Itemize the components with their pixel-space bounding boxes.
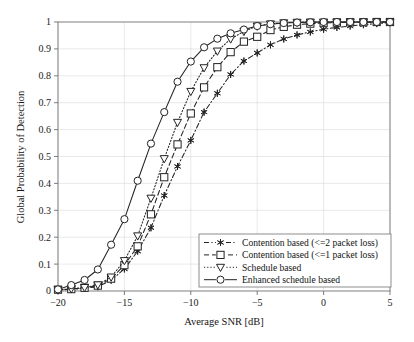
data-point-marker (187, 110, 194, 117)
legend-item[interactable]: Schedule based (204, 262, 302, 273)
legend-label: Schedule based (242, 262, 302, 273)
data-point-marker (307, 19, 314, 26)
data-point-marker (227, 30, 234, 37)
data-point-marker (217, 251, 224, 258)
data-point-marker (94, 266, 101, 273)
chart-figure: −20−15−10−505 00.10.20.30.40.50.60.70.80… (0, 0, 414, 342)
data-point-marker (386, 18, 393, 25)
data-point-marker (333, 18, 340, 25)
data-point-marker (187, 58, 194, 65)
y-tick-label: 0.5 (39, 151, 52, 162)
data-point-marker (217, 276, 224, 283)
data-point-marker (174, 78, 181, 85)
legend-label: Contention based (<=2 packet loss) (242, 237, 378, 249)
chart-legend[interactable]: Contention based (<=2 packet loss)Conten… (199, 234, 391, 287)
y-tick-label: 0.6 (39, 124, 52, 135)
data-point-marker (68, 281, 75, 288)
y-tick-label: 0.8 (39, 70, 52, 81)
data-point-marker (147, 140, 154, 147)
legend-label: Contention based (<=1 packet loss) (242, 249, 378, 261)
data-point-marker (293, 19, 300, 26)
data-point-marker (373, 18, 380, 25)
data-point-marker (161, 109, 168, 116)
data-point-marker (174, 141, 181, 148)
data-point-marker (214, 35, 221, 42)
data-point-marker (200, 44, 207, 51)
x-tick-label: −15 (117, 297, 133, 308)
data-point-marker (121, 216, 128, 223)
data-point-marker (240, 26, 247, 33)
data-point-marker (227, 49, 234, 56)
data-point-marker (360, 18, 367, 25)
x-axis-label: Average SNR [dB] (184, 316, 264, 327)
data-point-marker (147, 211, 154, 218)
data-point-marker (240, 38, 247, 45)
data-point-marker (134, 243, 141, 250)
legend-label: Enhanced schedule based (242, 274, 340, 285)
legend-item[interactable]: Enhanced schedule based (204, 274, 340, 285)
data-point-marker (81, 276, 88, 283)
data-point-marker (200, 84, 207, 91)
x-tick-label: −20 (50, 297, 66, 308)
data-point-marker (54, 286, 61, 293)
data-point-marker (320, 18, 327, 25)
y-tick-label: 0.9 (39, 43, 52, 54)
data-point-marker (347, 18, 354, 25)
y-tick-label: 0 (46, 285, 51, 296)
y-tick-label: 1 (46, 16, 51, 27)
y-tick-label: 0.2 (39, 232, 52, 243)
data-point-marker (108, 241, 115, 248)
y-tick-label: 0.3 (39, 205, 52, 216)
y-tick-label: 0.4 (39, 178, 52, 189)
data-point-marker (254, 22, 261, 29)
x-tick-label: −5 (252, 297, 263, 308)
data-point-marker (280, 19, 287, 26)
y-axis-label: Global Probability of Detection (15, 90, 26, 223)
x-tick-label: −10 (183, 297, 199, 308)
data-point-marker (254, 33, 261, 40)
x-tick-label: 0 (321, 297, 326, 308)
data-point-marker (134, 177, 141, 184)
y-tick-label: 0.1 (39, 259, 52, 270)
data-point-marker (214, 64, 221, 71)
y-tick-label: 0.7 (39, 97, 52, 108)
chart-canvas: −20−15−10−505 00.10.20.30.40.50.60.70.80… (0, 0, 414, 342)
data-point-marker (267, 21, 274, 28)
data-point-marker (161, 174, 168, 181)
x-tick-label: 5 (388, 297, 393, 308)
